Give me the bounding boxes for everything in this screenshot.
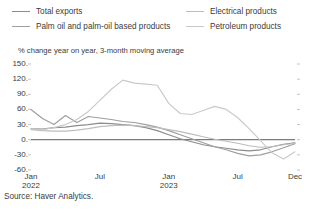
- x-tick-month: Jan: [25, 172, 38, 181]
- y-tick-label: 120.: [2, 74, 28, 83]
- legend-column-left: Total exports Palm oil and palm-oil base…: [12, 4, 170, 34]
- y-tick-label: 60.: [2, 104, 28, 113]
- x-tick-label: Jan2023: [149, 172, 189, 190]
- legend-label-total-exports: Total exports: [36, 7, 82, 16]
- legend-column-right: Electrical products Petroleum products: [186, 4, 281, 34]
- x-tick-label: Jul: [218, 172, 258, 181]
- legend-swatch-electrical-products: [186, 11, 204, 12]
- legend-swatch-palm-oil: [12, 26, 30, 27]
- plot-canvas: [0, 46, 314, 178]
- legend-label-palm-oil: Palm oil and palm-oil based products: [36, 22, 170, 31]
- legend-label-petroleum-products: Petroleum products: [210, 22, 281, 31]
- series-line-electrical-products: [31, 125, 295, 147]
- plot-area: % change year on year, 3-month moving av…: [0, 46, 314, 178]
- legend-label-electrical-products: Electrical products: [210, 7, 277, 16]
- y-tick-label: 0.: [2, 135, 28, 144]
- x-tick-month: Jan: [162, 172, 175, 181]
- x-tick-month: Jul: [95, 172, 105, 181]
- y-tick-label: 30.: [2, 120, 28, 129]
- legend-item-palm-oil: Palm oil and palm-oil based products: [12, 19, 170, 34]
- y-tick-label: -30.: [2, 150, 28, 159]
- chart-container: Total exports Palm oil and palm-oil base…: [0, 0, 314, 211]
- x-tick-year: 2022: [11, 181, 51, 190]
- y-tick-label: 90.: [2, 89, 28, 98]
- legend-item-petroleum-products: Petroleum products: [186, 19, 281, 34]
- x-tick-month: Jul: [232, 172, 242, 181]
- chart-legend: Total exports Palm oil and palm-oil base…: [0, 4, 314, 38]
- x-tick-label: Jul: [80, 172, 120, 181]
- legend-item-total-exports: Total exports: [12, 4, 170, 19]
- x-tick-year: 2023: [149, 181, 189, 190]
- x-tick-label: Dec: [275, 172, 314, 181]
- legend-swatch-total-exports: [12, 11, 30, 12]
- y-tick-label: 150.: [2, 59, 28, 68]
- x-tick-label: Jan2022: [11, 172, 51, 190]
- x-tick-month: Dec: [288, 172, 302, 181]
- legend-swatch-petroleum-products: [186, 26, 204, 27]
- source-note: Source: Haver Analytics.: [4, 192, 93, 201]
- series-svg: [0, 46, 314, 178]
- legend-item-electrical-products: Electrical products: [186, 4, 281, 19]
